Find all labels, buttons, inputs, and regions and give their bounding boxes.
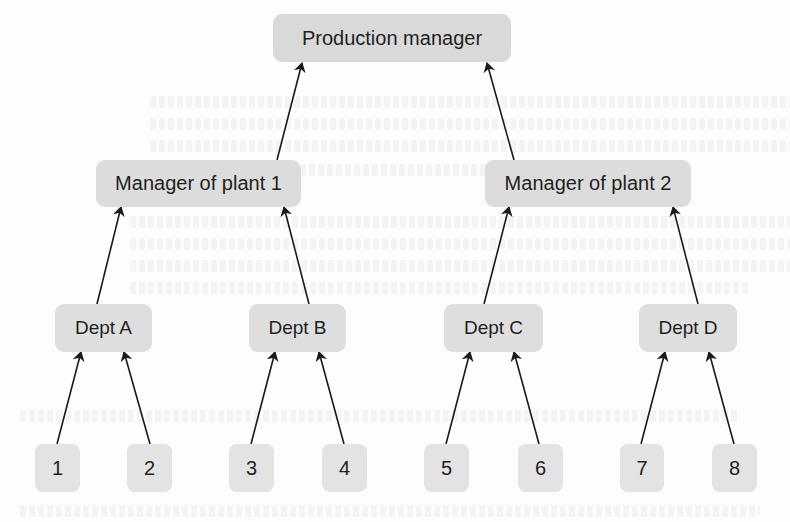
node-dept-c: Dept C	[444, 304, 543, 352]
node-label: Dept A	[75, 317, 132, 339]
node-label: 1	[52, 457, 63, 480]
arrow-unit_6-to-dept_c	[514, 352, 539, 444]
arrow-unit_8-to-dept_d	[709, 352, 734, 444]
node-unit-5: 5	[424, 444, 469, 492]
arrow-unit_2-to-dept_a	[124, 352, 150, 444]
arrow-unit_4-to-dept_b	[319, 352, 344, 444]
background-texture	[150, 118, 790, 130]
node-label: Dept D	[658, 317, 717, 339]
background-texture	[20, 410, 740, 422]
background-texture	[150, 96, 790, 108]
node-label: 5	[441, 457, 452, 480]
node-label: Manager of plant 1	[115, 172, 282, 195]
arrow-unit_7-to-dept_d	[641, 352, 665, 444]
background-texture	[150, 140, 790, 152]
node-label: 6	[535, 457, 546, 480]
node-unit-4: 4	[322, 444, 367, 492]
node-label: 2	[144, 457, 155, 480]
node-dept-b: Dept B	[249, 304, 346, 352]
node-dept-d: Dept D	[639, 304, 737, 352]
node-unit-8: 8	[712, 444, 757, 492]
background-texture	[300, 164, 490, 176]
node-label: 3	[246, 457, 257, 480]
node-manager-plant-1: Manager of plant 1	[96, 160, 301, 207]
node-label: Manager of plant 2	[505, 172, 672, 195]
node-unit-1: 1	[35, 444, 80, 492]
node-manager-plant-2: Manager of plant 2	[485, 160, 691, 207]
node-label: Dept C	[464, 317, 523, 339]
node-label: 8	[729, 457, 740, 480]
node-label: Dept B	[268, 317, 326, 339]
node-dept-a: Dept A	[55, 304, 152, 352]
node-unit-7: 7	[620, 444, 664, 492]
arrow-unit_3-to-dept_b	[251, 352, 275, 444]
arrow-unit_5-to-dept_c	[446, 352, 470, 444]
background-texture	[130, 282, 750, 294]
background-texture	[130, 260, 790, 272]
arrow-unit_1-to-dept_a	[57, 352, 81, 444]
node-unit-2: 2	[127, 444, 172, 492]
arrow-dept_a-to-manager_plant_1	[97, 207, 121, 304]
node-unit-3: 3	[229, 444, 274, 492]
node-label: Production manager	[302, 27, 482, 50]
node-unit-6: 6	[518, 444, 563, 492]
background-texture	[130, 238, 790, 250]
background-texture	[20, 505, 760, 517]
node-label: 4	[339, 457, 350, 480]
diagram-canvas: Production manager Manager of plant 1 Ma…	[0, 0, 790, 522]
background-texture	[130, 216, 790, 228]
node-label: 7	[636, 457, 647, 480]
node-production-manager: Production manager	[273, 14, 511, 62]
